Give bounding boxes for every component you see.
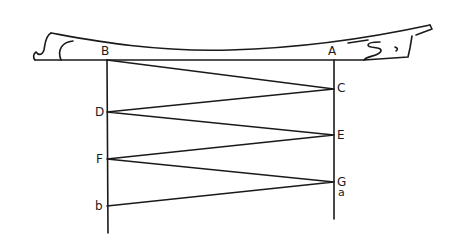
diagram-canvas: B A C D E F G a b bbox=[0, 0, 456, 241]
left-clip-icon bbox=[60, 41, 73, 60]
label-A: A bbox=[328, 45, 336, 57]
zigzag-line bbox=[107, 60, 334, 206]
label-D: D bbox=[95, 106, 104, 118]
label-B: B bbox=[101, 45, 109, 57]
label-F: F bbox=[96, 153, 103, 165]
label-b: b bbox=[95, 200, 103, 212]
right-clip-mark bbox=[395, 47, 397, 51]
label-E: E bbox=[337, 129, 345, 141]
zigzag-diagram bbox=[0, 0, 456, 241]
label-C: C bbox=[337, 82, 345, 94]
beam-left-end bbox=[34, 33, 51, 60]
label-a: a bbox=[338, 187, 345, 198]
right-clip-icon bbox=[348, 36, 412, 60]
vertical-line-B bbox=[107, 60, 108, 233]
